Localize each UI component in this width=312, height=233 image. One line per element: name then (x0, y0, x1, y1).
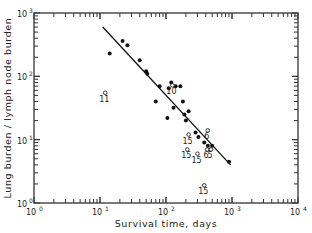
data-point (178, 84, 182, 88)
y-axis-ticks (34, 13, 298, 203)
data-point (125, 43, 129, 47)
data-point (206, 144, 210, 148)
data-point (181, 100, 185, 104)
svg-text:4: 4 (303, 205, 307, 212)
point-label: 6 (204, 132, 209, 141)
point-label: 15 (181, 151, 191, 160)
data-point (182, 112, 186, 116)
svg-text:10: 10 (92, 208, 102, 217)
point-label: 10 (166, 87, 176, 96)
point-label: 5 (207, 151, 212, 160)
data-point (227, 160, 231, 164)
y-axis-label: Lung burden / lymph node burden (2, 18, 13, 199)
data-point (108, 51, 112, 55)
data-point (210, 144, 214, 148)
data-point (121, 39, 125, 43)
x-axis-ticks (34, 13, 298, 203)
svg-text:10: 10 (17, 200, 27, 209)
svg-text:10: 10 (17, 10, 27, 19)
svg-text:1: 1 (105, 205, 109, 212)
data-point (187, 109, 191, 113)
data-point (158, 84, 162, 88)
data-point (196, 135, 200, 139)
svg-text:0: 0 (29, 197, 33, 204)
point-label: 11 (99, 95, 109, 104)
plot-frame (34, 13, 298, 203)
svg-text:3: 3 (29, 7, 33, 14)
data-point (165, 116, 169, 120)
filled-data-points (108, 39, 231, 164)
svg-text:3: 3 (237, 205, 241, 212)
data-point (172, 106, 176, 110)
svg-text:10: 10 (290, 208, 300, 217)
x-axis-tick-labels: 100101102103104 (26, 205, 307, 217)
svg-text:0: 0 (39, 205, 43, 212)
x-axis-label: Survival time, days (115, 218, 218, 229)
data-point (138, 58, 142, 62)
svg-text:10: 10 (224, 208, 234, 217)
svg-text:10: 10 (17, 137, 27, 146)
y-axis-tick-labels: 100101102103 (17, 7, 33, 209)
point-label: 15 (198, 187, 208, 196)
data-point (145, 72, 149, 76)
point-label: 15 (183, 137, 193, 146)
svg-text:2: 2 (29, 70, 33, 77)
data-point (184, 119, 188, 123)
point-label: 15 (191, 156, 201, 165)
svg-text:2: 2 (171, 205, 175, 212)
svg-text:10: 10 (158, 208, 168, 217)
svg-text:10: 10 (26, 208, 36, 217)
svg-text:10: 10 (17, 73, 27, 82)
svg-text:1: 1 (29, 134, 33, 141)
data-point (194, 130, 198, 134)
scatter-chart: 100101102103104 100101102103 11101515156… (0, 0, 312, 233)
data-point (154, 100, 158, 104)
